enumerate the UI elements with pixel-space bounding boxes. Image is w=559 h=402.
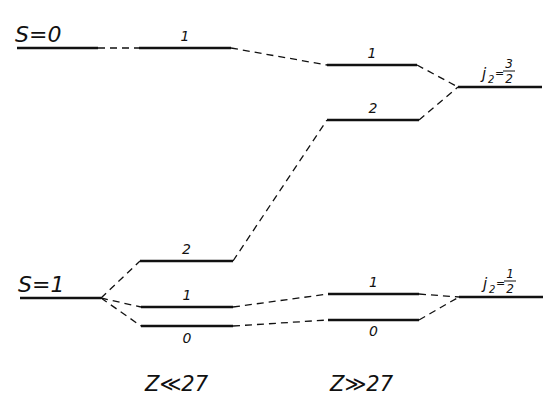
dashed-connector bbox=[233, 294, 328, 307]
energy-level-diagram: S=0S=112101210j2=32j2=12Z≪27Z≫27 bbox=[0, 0, 559, 402]
energy-levels bbox=[17, 48, 543, 326]
j-symbol: j bbox=[480, 65, 487, 83]
j-value-label: 1 bbox=[181, 28, 190, 44]
j-value-label: 0 bbox=[369, 323, 378, 339]
dashed-connector bbox=[417, 65, 458, 87]
j-subscript: 2 bbox=[488, 74, 494, 85]
term-label: S=1 bbox=[18, 272, 64, 297]
equals-sign: = bbox=[496, 277, 505, 290]
j-value-label: 0 bbox=[183, 330, 192, 346]
j-subscript: 2 bbox=[489, 284, 495, 295]
dashed-connector bbox=[233, 320, 328, 326]
dashed-connector bbox=[419, 294, 459, 297]
equals-sign: = bbox=[495, 67, 504, 80]
dashed-connector bbox=[101, 261, 140, 298]
dashed-connector bbox=[419, 87, 458, 120]
j-value-label: 2 bbox=[182, 241, 191, 257]
j-value-label: 1 bbox=[183, 287, 192, 303]
dashed-connector bbox=[419, 297, 459, 320]
dashed-connector bbox=[101, 298, 141, 326]
fraction-numerator: 1 bbox=[506, 267, 514, 281]
fraction-denominator: 2 bbox=[505, 72, 513, 86]
dashed-connector bbox=[231, 48, 327, 65]
dashed-connectors bbox=[98, 48, 459, 326]
fraction-numerator: 3 bbox=[505, 57, 513, 71]
j-value-label: 1 bbox=[369, 274, 378, 290]
dashed-connector bbox=[233, 120, 327, 261]
term-label: S=0 bbox=[15, 22, 61, 47]
regime-label: Z≪27 bbox=[144, 372, 209, 396]
fraction-denominator: 2 bbox=[506, 282, 514, 296]
j-symbol: j bbox=[481, 275, 488, 293]
j-value-label: 2 bbox=[369, 100, 378, 116]
dashed-connector bbox=[101, 298, 141, 307]
j-value-label: 1 bbox=[368, 45, 377, 61]
regime-label: Z≫27 bbox=[329, 372, 394, 396]
